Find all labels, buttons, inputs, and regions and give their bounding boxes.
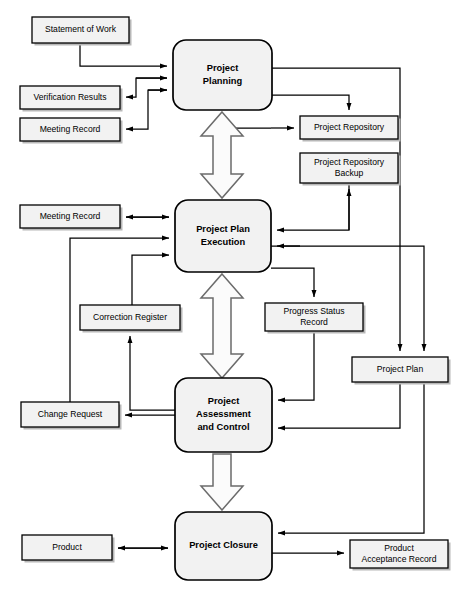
artifact-product[interactable]: Product	[22, 535, 115, 563]
shape-label: Verification Results	[33, 92, 106, 102]
process-flow-diagram: Statement of WorkVerification ResultsMee…	[0, 0, 469, 600]
shape-label: Project Closure	[189, 540, 258, 550]
artifact-change-request[interactable]: Change Request	[21, 402, 122, 430]
flow-assessment-to-correction-register	[130, 336, 175, 410]
artifact-meeting-record-mid[interactable]: Meeting Record	[20, 205, 123, 231]
shape-label: Meeting Record	[40, 211, 101, 221]
shape-label: Statement of Work	[45, 24, 117, 34]
artifact-statement-of-work[interactable]: Statement of Work	[32, 17, 132, 46]
flow-planning-to-meeting-record-top	[126, 90, 167, 129]
flow-progress-status-to-assessment	[278, 331, 314, 400]
flow-sow-to-planning	[80, 43, 167, 66]
flow-planning-to-repository	[272, 95, 349, 110]
shape-label: Project Plan	[377, 364, 424, 374]
artifact-meeting-record-top[interactable]: Meeting Record	[20, 118, 123, 144]
flow-execution-assessment-bidirectional	[201, 274, 243, 378]
shape-label: Project Repository	[314, 122, 385, 132]
flow-backup-to-execution	[277, 183, 349, 230]
flow-planning-execution-bidirectional	[201, 112, 243, 198]
flow-project-plan-to-closure	[278, 382, 424, 533]
artifact-project-plan[interactable]: Project Plan	[352, 357, 451, 385]
shape-label: Change Request	[38, 409, 103, 419]
process-project-assessment-control[interactable]: ProjectAssessmentand Control	[175, 378, 272, 452]
artifact-correction-register[interactable]: Correction Register	[80, 305, 183, 333]
flow-project-plan-to-assessment	[278, 382, 400, 428]
flow-assessment-closure-arrow	[201, 454, 243, 510]
process-project-planning[interactable]: ProjectPlanning	[173, 40, 272, 110]
shape-label: Meeting Record	[40, 124, 101, 134]
shape-label: Correction Register	[93, 312, 167, 322]
shape-label: Product	[52, 542, 82, 552]
artifact-progress-status-record[interactable]: Progress StatusRecord	[265, 303, 366, 334]
flowchart-canvas: Statement of WorkVerification ResultsMee…	[0, 0, 469, 600]
flow-execution-to-progress-status	[271, 268, 314, 297]
artifact-product-acceptance-record[interactable]: ProductAcceptance Record	[350, 540, 451, 571]
process-project-plan-execution[interactable]: Project PlanExecution	[175, 200, 271, 272]
flow-correction-register-to-execution	[132, 255, 169, 305]
flow-planning-to-verification	[126, 78, 167, 97]
artifact-project-repository-backup[interactable]: Project RepositoryBackup	[300, 153, 401, 186]
artifact-verification-results[interactable]: Verification Results	[20, 86, 123, 112]
artifact-project-repository[interactable]: Project Repository	[300, 116, 401, 142]
process-project-closure[interactable]: Project Closure	[175, 512, 272, 580]
flow-execution-to-project-plan	[271, 246, 424, 351]
